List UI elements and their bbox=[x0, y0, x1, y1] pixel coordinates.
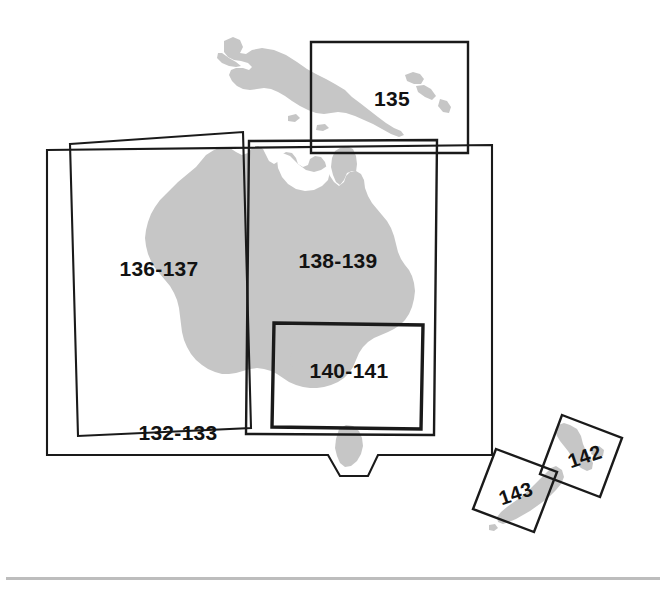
footer-divider bbox=[6, 577, 660, 580]
index-label-140-141: 140-141 bbox=[309, 359, 388, 382]
land-island-small-b bbox=[316, 124, 329, 131]
land-island-ne-1 bbox=[405, 72, 424, 84]
land-nz-stewart bbox=[489, 524, 498, 531]
map-index-page: 135 132-133 136-137 138-139 140-141 142 … bbox=[0, 0, 666, 600]
land-island-ne-3 bbox=[438, 99, 451, 113]
index-label-136-137: 136-137 bbox=[119, 257, 198, 280]
map-index-diagram: 135 132-133 136-137 138-139 140-141 142 … bbox=[0, 0, 666, 600]
land-island-ne-2 bbox=[416, 85, 436, 100]
land-tasmania bbox=[335, 425, 363, 467]
index-label-132-133: 132-133 bbox=[138, 421, 217, 444]
landmass-layer bbox=[145, 37, 604, 531]
land-island-small-a bbox=[288, 114, 300, 122]
index-label-135: 135 bbox=[374, 87, 410, 110]
index-label-138-139: 138-139 bbox=[298, 249, 377, 272]
